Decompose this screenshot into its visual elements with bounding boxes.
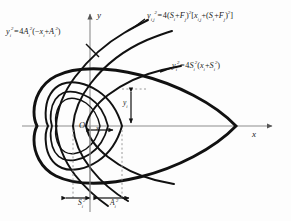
- formula-top-yij: yi,j2 = 4(Si+Fj)2[xi,j+(Si+Fj)2]: [147, 12, 233, 20]
- leader-lines: [86, 19, 171, 72]
- y-axis-label: y: [97, 11, 101, 20]
- right-opening-parabolas: [56, 20, 181, 206]
- origin-label: O: [79, 121, 85, 130]
- axes-group: [22, 14, 272, 212]
- yi-dimension-label: yi: [123, 99, 128, 107]
- formula-mid-yi: yi2 = 4Si2(xi+Si2): [172, 62, 220, 70]
- curve-right-opening-middle-lower: [73, 126, 128, 201]
- x-axis-label: x: [252, 130, 256, 139]
- xi-dimension-label: xi: [96, 125, 100, 132]
- curve-right-opening-outer-lower: [56, 126, 108, 206]
- figure-container: yi,j2 = 4(Si+Fj)2[xi,j+(Si+Fj)2] yi2 = 4…: [0, 0, 291, 221]
- a-squared-dimension-label: Ai2: [110, 199, 118, 207]
- curve-right-opening-inner-lower: [86, 126, 174, 184]
- s-squared-dimension-label: Si2: [78, 199, 85, 207]
- curve-right-opening-inner: [86, 66, 181, 126]
- formula-left-yi: yi2 = 4Ai2(−xi+Ai2): [6, 28, 61, 36]
- leader-left: [86, 44, 99, 57]
